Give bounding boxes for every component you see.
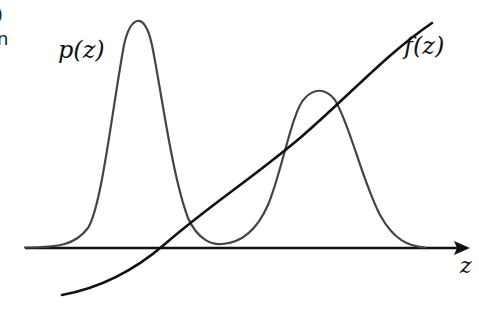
function-label-f: f(z) (404, 34, 444, 58)
density-label-p: p(z) (58, 38, 105, 62)
cut-off-text-fragment-2: n (0, 30, 8, 48)
function-curve-f (62, 23, 432, 295)
axis-label-z: z (460, 255, 472, 277)
cut-off-text-fragment-1: ) (0, 6, 3, 24)
